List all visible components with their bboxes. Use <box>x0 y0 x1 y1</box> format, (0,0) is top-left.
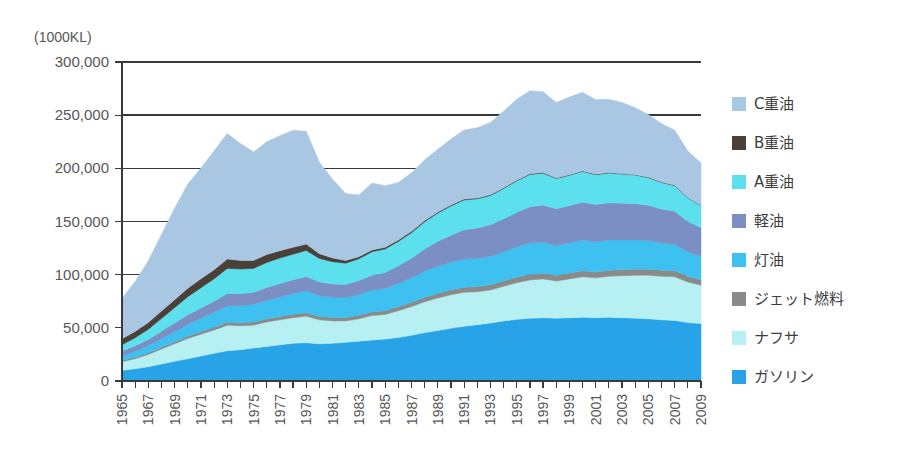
legend-swatch-icon <box>732 214 746 228</box>
legend-item-label: ジェット燃料 <box>754 290 844 308</box>
legend-item-label: B重油 <box>754 134 794 152</box>
x-tick-label: 1965 <box>114 394 130 425</box>
x-tick-label: 2003 <box>614 394 630 425</box>
x-tick-label: 1979 <box>298 394 314 425</box>
x-tick-label: 1989 <box>430 394 446 425</box>
legend-item[interactable]: B重油 <box>732 134 794 152</box>
x-tick-label: 1983 <box>351 394 367 425</box>
x-tick-label: 1995 <box>509 394 525 425</box>
x-tick-label: 1967 <box>140 394 156 425</box>
x-tick-labels-group: 1965196719691971197319751977197919811983… <box>114 394 709 425</box>
legend-swatch-icon <box>732 136 746 150</box>
x-tick-label: 2009 <box>693 394 709 425</box>
x-tick-label: 1985 <box>377 394 393 425</box>
legend-swatch-icon <box>732 175 746 189</box>
legend-item[interactable]: 灯油 <box>732 251 784 269</box>
x-tick-label: 2005 <box>640 394 656 425</box>
y-axis-unit-label: (1000KL) <box>34 29 92 45</box>
legend-item-label: A重油 <box>754 173 794 191</box>
x-tick-label: 1977 <box>272 394 288 425</box>
x-tick-label: 1981 <box>325 394 341 425</box>
y-tick-label: 100,000 <box>55 266 109 283</box>
legend-item-label: 軽油 <box>754 212 784 230</box>
legend-swatch-icon <box>732 253 746 267</box>
legend-item-label: C重油 <box>754 95 794 113</box>
x-tick-label: 1973 <box>219 394 235 425</box>
x-tick-label: 1969 <box>167 394 183 425</box>
x-tick-label: 1993 <box>482 394 498 425</box>
legend-item[interactable]: A重油 <box>732 173 794 191</box>
legend-item[interactable]: ガソリン <box>732 368 814 386</box>
legend-swatch-icon <box>732 370 746 384</box>
legend-swatch-icon <box>732 331 746 345</box>
x-tick-label: 2001 <box>588 394 604 425</box>
y-tick-label: 200,000 <box>55 159 109 176</box>
legend-swatch-icon <box>732 97 746 111</box>
legend-item[interactable]: 軽油 <box>732 212 784 230</box>
x-tick-label: 1987 <box>404 394 420 425</box>
y-tick-label: 50,000 <box>63 319 109 336</box>
legend-item[interactable]: C重油 <box>732 95 794 113</box>
x-tick-label: 2007 <box>667 394 683 425</box>
legend-item-label: ガソリン <box>754 368 814 386</box>
y-tick-label: 250,000 <box>55 106 109 123</box>
fuel-consumption-area-chart: (1000KL) 050,000100,000150,000200,000250… <box>0 0 898 474</box>
legend-item-label: ナフサ <box>754 329 799 347</box>
x-tick-label: 1991 <box>456 394 472 425</box>
x-tick-label: 1997 <box>535 394 551 425</box>
x-tick-label: 1971 <box>193 394 209 425</box>
y-tick-label: 150,000 <box>55 213 109 230</box>
y-tick-label: 300,000 <box>55 53 109 70</box>
chart-svg-canvas: (1000KL) 050,000100,000150,000200,000250… <box>0 0 898 474</box>
legend-item[interactable]: ナフサ <box>732 329 799 347</box>
legend-swatch-icon <box>732 292 746 306</box>
x-tick-label: 1975 <box>246 394 262 425</box>
legend-item-label: 灯油 <box>754 251 784 269</box>
x-tick-label: 1999 <box>561 394 577 425</box>
y-tick-label: 0 <box>101 372 109 389</box>
